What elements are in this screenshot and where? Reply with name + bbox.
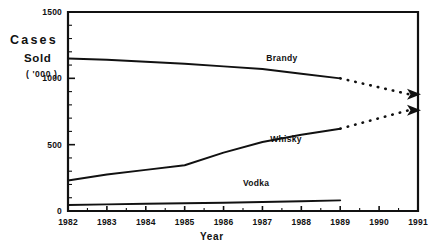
x-tick-label: 1989: [330, 217, 350, 227]
x-tick-label: 1986: [214, 217, 234, 227]
series-label-brandy: Brandy: [266, 53, 297, 63]
x-tick-label: 1984: [136, 217, 156, 227]
y-axis-title-line3: ( '000 ): [26, 69, 57, 79]
x-tick-label: 1983: [97, 217, 117, 227]
chart-container: 050010001500 198219831984198519861987198…: [0, 0, 433, 246]
x-axis-title: Year: [200, 231, 224, 242]
x-tick-label: 1982: [58, 217, 78, 227]
y-axis-title-line1: Cases: [10, 33, 58, 47]
y-axis-title: Cases Sold ( '000 ): [10, 33, 58, 79]
projection-line-whisky: [340, 110, 409, 129]
x-tick-label: 1988: [291, 217, 311, 227]
series-line-vodka: [68, 200, 340, 205]
x-tick-label: 1991: [408, 217, 428, 227]
series-label-vodka: Vodka: [243, 178, 269, 188]
line-chart: 050010001500 198219831984198519861987198…: [0, 0, 433, 246]
x-tick-label: 1987: [253, 217, 273, 227]
series-label-whisky: Whisky: [270, 134, 302, 144]
series-group: [68, 58, 409, 205]
x-axis-tick-labels: 1982198319841985198619871988198919901991: [58, 217, 428, 227]
series-line-brandy: [68, 58, 340, 78]
y-axis-title-line2: Sold: [24, 52, 51, 64]
y-tick-label: 500: [47, 140, 62, 150]
projection-line-brandy: [340, 78, 409, 94]
y-tick-label: 1500: [42, 7, 62, 17]
x-tick-label: 1985: [175, 217, 195, 227]
x-tick-label: 1990: [369, 217, 389, 227]
y-tick-label: 0: [57, 206, 62, 216]
